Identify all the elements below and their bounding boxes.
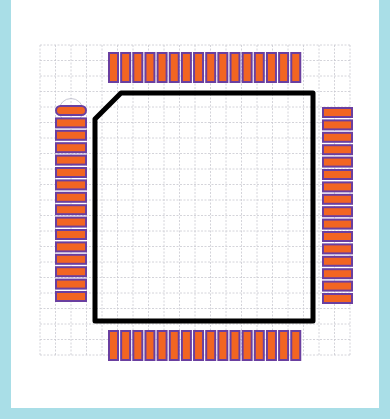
pads-right-column [323, 108, 352, 303]
pad-bottom[interactable] [206, 331, 215, 360]
pad-top[interactable] [182, 53, 191, 82]
pad-bottom[interactable] [170, 331, 179, 360]
pad-top[interactable] [158, 53, 167, 82]
pad-pin1[interactable] [56, 106, 86, 115]
pad-right[interactable] [323, 158, 352, 167]
pad-right[interactable] [323, 269, 352, 278]
pad-top[interactable] [218, 53, 227, 82]
pad-left[interactable] [56, 230, 86, 239]
pad-bottom[interactable] [218, 331, 227, 360]
pad-left[interactable] [56, 218, 86, 227]
chip-outline [95, 93, 313, 321]
pad-bottom[interactable] [231, 331, 240, 360]
pad-right[interactable] [323, 257, 352, 266]
pad-bottom[interactable] [133, 331, 142, 360]
pad-right[interactable] [323, 207, 352, 216]
pad-bottom[interactable] [279, 331, 288, 360]
pad-top[interactable] [133, 53, 142, 82]
pad-left[interactable] [56, 280, 86, 289]
pad-top[interactable] [267, 53, 276, 82]
pads-bottom-row [109, 331, 300, 360]
pad-top[interactable] [243, 53, 252, 82]
pad-right[interactable] [323, 133, 352, 142]
pad-top[interactable] [109, 53, 118, 82]
pad-left[interactable] [56, 255, 86, 264]
pad-top[interactable] [145, 53, 154, 82]
pad-top[interactable] [231, 53, 240, 82]
pad-left[interactable] [56, 180, 86, 189]
footprint-canvas [0, 0, 390, 419]
pad-left[interactable] [56, 292, 86, 301]
pad-bottom[interactable] [182, 331, 191, 360]
pad-left[interactable] [56, 267, 86, 276]
pad-left[interactable] [56, 143, 86, 152]
pad-top[interactable] [279, 53, 288, 82]
pad-right[interactable] [323, 244, 352, 253]
pad-left[interactable] [56, 193, 86, 202]
pad-top[interactable] [206, 53, 215, 82]
pad-bottom[interactable] [291, 331, 300, 360]
pad-left[interactable] [56, 168, 86, 177]
pad-right[interactable] [323, 195, 352, 204]
pad-right[interactable] [323, 232, 352, 241]
pad-left[interactable] [56, 131, 86, 140]
pad-bottom[interactable] [109, 331, 118, 360]
pad-bottom[interactable] [243, 331, 252, 360]
pad-right[interactable] [323, 220, 352, 229]
pad-right[interactable] [323, 170, 352, 179]
pad-top[interactable] [170, 53, 179, 82]
pad-bottom[interactable] [255, 331, 264, 360]
pad-bottom[interactable] [194, 331, 203, 360]
pad-left[interactable] [56, 205, 86, 214]
pad-top[interactable] [291, 53, 300, 82]
pad-left[interactable] [56, 242, 86, 251]
pad-right[interactable] [323, 120, 352, 129]
pad-right[interactable] [323, 108, 352, 117]
pad-top[interactable] [121, 53, 130, 82]
pad-right[interactable] [323, 294, 352, 303]
pad-left[interactable] [56, 118, 86, 127]
pad-top[interactable] [255, 53, 264, 82]
pads-top-row [109, 53, 300, 82]
pad-bottom[interactable] [121, 331, 130, 360]
pad-bottom[interactable] [158, 331, 167, 360]
pad-right[interactable] [323, 182, 352, 191]
pad-bottom[interactable] [145, 331, 154, 360]
pad-right[interactable] [323, 145, 352, 154]
package-outline [95, 93, 313, 321]
pad-top[interactable] [194, 53, 203, 82]
pad-left[interactable] [56, 156, 86, 165]
pad-bottom[interactable] [267, 331, 276, 360]
pad-right[interactable] [323, 282, 352, 291]
